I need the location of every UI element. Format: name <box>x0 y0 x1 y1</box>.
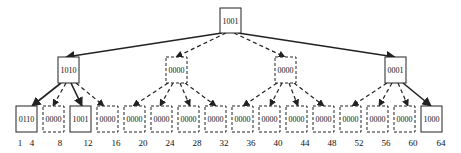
axis-label: 8 <box>58 138 63 148</box>
edge-n3-l12 <box>294 83 324 106</box>
leaf-node-16: 1000 <box>421 106 442 132</box>
root-node: 1001 <box>220 8 241 33</box>
leaf-node-label: 1000 <box>424 115 440 124</box>
edge-n1-l2 <box>53 83 66 106</box>
leaf-node-label: 0000 <box>46 115 62 124</box>
leaf-node-8: 0000 <box>205 106 226 132</box>
leaf-node-label: 0000 <box>397 115 413 124</box>
leaf-node-label: 1001 <box>73 115 89 124</box>
edge-n4-l16 <box>403 83 431 106</box>
root-node-label: 1001 <box>223 17 239 26</box>
leaf-node-label: 0110 <box>19 115 35 124</box>
axis-label: 12 <box>84 138 93 148</box>
edges-root <box>66 33 395 57</box>
tree-diagram: 1001 1010 0000 0000 0001 0110 0000 <box>0 0 461 153</box>
leaf-node-label: 0000 <box>370 115 386 124</box>
level2-node-1: 1010 <box>58 57 79 83</box>
level2-node-3: 0000 <box>275 57 296 83</box>
leaf-node-label: 0000 <box>181 115 197 124</box>
leaf-node-label: 0000 <box>289 115 305 124</box>
level2-node-label: 0000 <box>169 66 185 75</box>
axis-label: 28 <box>193 138 203 148</box>
axis-label: 64 <box>437 138 447 148</box>
leaf-node-12: 0000 <box>313 106 334 132</box>
edge-n3-l10 <box>270 83 282 106</box>
leaf-node-6: 0000 <box>151 106 172 132</box>
axis-label: 4 <box>30 138 35 148</box>
axis-label: 52 <box>355 138 364 148</box>
axis-label: 60 <box>409 138 419 148</box>
tree-diagram-svg: 1001 1010 0000 0000 0001 0110 0000 <box>0 0 461 153</box>
leaf-node-label: 0000 <box>235 115 251 124</box>
edge-n2-l8 <box>185 83 216 106</box>
axis-label: 1 <box>18 138 23 148</box>
axis-label: 48 <box>328 138 338 148</box>
level2-node-label: 1010 <box>61 66 77 75</box>
leaf-node-3: 1001 <box>70 106 91 132</box>
leaf-node-label: 0000 <box>343 115 359 124</box>
leaf-node-15: 0000 <box>394 106 415 132</box>
level2-node-label: 0001 <box>388 66 404 75</box>
leaf-node-1: 0110 <box>16 106 37 132</box>
leaf-node-label: 0000 <box>127 115 143 124</box>
leaf-node-label: 0000 <box>100 115 116 124</box>
edge-n1-l3 <box>71 83 82 106</box>
axis-label: 44 <box>301 138 311 148</box>
leaf-node-2: 0000 <box>43 106 64 132</box>
leaf-node-11: 0000 <box>286 106 307 132</box>
level2-node-4: 0001 <box>385 57 406 83</box>
axis-label: 24 <box>166 138 176 148</box>
edge-n2-l7 <box>180 83 190 106</box>
level2-node-2: 0000 <box>166 57 187 83</box>
axis-label: 36 <box>247 138 257 148</box>
edge-n4-l14 <box>379 83 392 106</box>
axis-labels: 1 4 8 12 16 20 24 28 32 36 40 44 48 52 5… <box>18 138 446 148</box>
axis-label: 20 <box>139 138 149 148</box>
leaf-nodes: 0110 0000 1001 0000 0000 0000 0000 0000 <box>16 106 442 132</box>
leaf-node-10: 0000 <box>259 106 280 132</box>
leaf-node-label: 0000 <box>154 115 170 124</box>
edge-n3-l11 <box>289 83 298 106</box>
level2-node-label: 0000 <box>278 66 294 75</box>
leaf-node-5: 0000 <box>124 106 145 132</box>
leaf-node-label: 0000 <box>208 115 224 124</box>
leaf-node-13: 0000 <box>340 106 361 132</box>
edge-root-to-n4 <box>238 33 395 57</box>
edges-level2 <box>32 83 431 106</box>
edge-n2-l5 <box>133 83 168 106</box>
level2-nodes: 1010 0000 0000 0001 <box>58 57 406 83</box>
leaf-node-label: 0000 <box>262 115 278 124</box>
axis-label: 40 <box>274 138 284 148</box>
axis-label: 56 <box>382 138 392 148</box>
leaf-node-4: 0000 <box>97 106 118 132</box>
leaf-node-7: 0000 <box>178 106 199 132</box>
edge-n4-l13 <box>352 83 387 106</box>
leaf-node-9: 0000 <box>232 106 253 132</box>
edge-n2-l6 <box>160 83 173 106</box>
leaf-node-14: 0000 <box>367 106 388 132</box>
edge-root-to-n1 <box>66 33 222 57</box>
edge-n1-l1 <box>32 83 61 106</box>
axis-label: 16 <box>112 138 122 148</box>
axis-label: 32 <box>220 138 229 148</box>
leaf-node-label: 0000 <box>316 115 332 124</box>
